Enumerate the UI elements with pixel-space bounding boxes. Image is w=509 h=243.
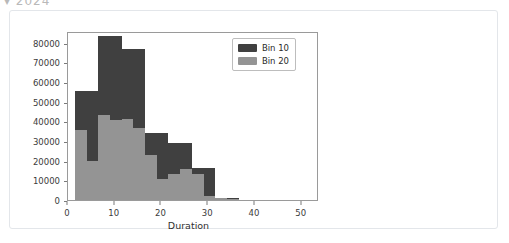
legend-swatch — [238, 57, 257, 65]
plot-area: 0100002000030000400005000060000700008000… — [67, 32, 310, 201]
y-tick-label: 80000 — [33, 39, 67, 49]
histogram-bar — [168, 174, 180, 200]
histogram-bar — [227, 199, 239, 200]
histogram-bar — [215, 198, 227, 200]
y-tick-label: 20000 — [33, 157, 67, 167]
histogram-bar — [122, 119, 134, 200]
x-tick-label: 30 — [202, 201, 213, 218]
x-axis-label: Duration — [168, 220, 209, 231]
x-tick-label: 10 — [108, 201, 119, 218]
x-tick-label: 0 — [64, 201, 69, 218]
legend-label: Bin 10 — [262, 43, 289, 53]
histogram-bar — [133, 128, 145, 200]
histogram-bar — [204, 196, 216, 200]
y-tick-label: 60000 — [33, 78, 67, 88]
histogram-bar — [180, 169, 192, 200]
legend-item: Bin 20 — [238, 56, 289, 66]
histogram-bar — [110, 120, 122, 200]
y-tick-label: 10000 — [33, 176, 67, 186]
y-tick-label: 70000 — [33, 58, 67, 68]
x-tick-label: 20 — [155, 201, 166, 218]
histogram-bar — [192, 174, 204, 200]
y-tick-label: 50000 — [33, 98, 67, 108]
histogram-bar — [98, 115, 110, 200]
chart-card: Flights 01000020000300004000050000600007… — [9, 10, 498, 229]
x-tick-label: 50 — [295, 201, 306, 218]
histogram-figure: Flights 01000020000300004000050000600007… — [10, 11, 497, 228]
histogram-bar — [157, 179, 169, 200]
chart-legend: Bin 10Bin 20 — [232, 38, 296, 71]
legend-label: Bin 20 — [262, 56, 289, 66]
histogram-bar — [75, 130, 87, 200]
clipped-heading-text: ▾ 2024 — [4, 0, 50, 8]
histogram-bar — [145, 155, 157, 200]
legend-item: Bin 10 — [238, 43, 289, 53]
y-tick-label: 40000 — [33, 117, 67, 127]
histogram-bar — [87, 161, 99, 200]
x-tick-label: 40 — [249, 201, 260, 218]
y-tick-label: 30000 — [33, 137, 67, 147]
legend-swatch — [238, 44, 257, 52]
